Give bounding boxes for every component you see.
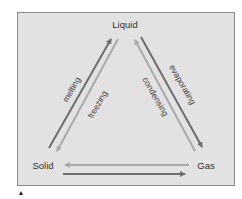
phase-change-diagram: Liquid Solid Gas melting freezing evapor…	[0, 0, 242, 199]
liquid-label: Liquid	[112, 19, 137, 30]
melting-label: melting	[60, 75, 82, 104]
evaporating-label: evaporating	[167, 63, 198, 107]
gas-label: Gas	[197, 160, 215, 171]
triangle-marker-icon	[19, 191, 23, 195]
solid-label: Solid	[32, 160, 53, 171]
